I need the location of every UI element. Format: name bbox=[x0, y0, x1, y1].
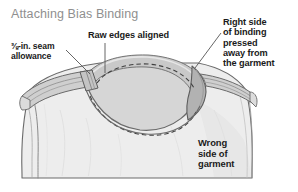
illustration-page: Attaching Bias Binding bbox=[0, 0, 298, 192]
label-wrong-side-of-garment: Wrong side of garment bbox=[198, 138, 234, 170]
binding-strip-right-end-cap bbox=[250, 92, 257, 107]
label-seam-allowance: ⅜-in. seam allowance bbox=[11, 42, 54, 61]
label-raw-edges-aligned: Raw edges aligned bbox=[88, 30, 169, 40]
label-right-side-of-binding: Right side of binding pressed away from … bbox=[223, 17, 274, 68]
leader-right-side-binding bbox=[195, 33, 221, 68]
